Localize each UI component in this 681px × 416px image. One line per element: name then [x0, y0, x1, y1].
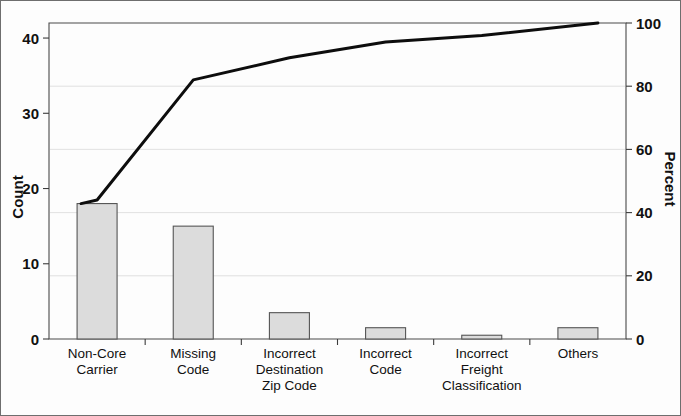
- y-axis-ticks: 010203040: [22, 30, 49, 348]
- bar: [558, 328, 598, 339]
- x-axis-ticks: [145, 339, 530, 345]
- x-axis-category-label: Incorrect: [263, 346, 316, 361]
- x-axis-category-label: Carrier: [76, 362, 118, 377]
- x-axis-category-label: Incorrect: [359, 346, 412, 361]
- gridlines: [50, 86, 625, 276]
- x-axis-category-labels: Non-CoreCarrierMissingCodeIncorrectDesti…: [68, 346, 599, 393]
- bar: [269, 313, 309, 339]
- bar: [366, 328, 406, 339]
- pareto-chart-figure: 010203040 020406080100 Non-CoreCarrierMi…: [0, 0, 681, 416]
- y2-tick-label: 100: [636, 15, 661, 32]
- y2-axis-ticks: 020406080100: [626, 15, 661, 348]
- x-axis-category-label: Incorrect: [455, 346, 508, 361]
- bar: [462, 335, 502, 339]
- y2-tick-label: 40: [636, 204, 653, 221]
- y2-axis-title: Percent: [662, 151, 679, 206]
- y2-tick-label: 80: [636, 78, 653, 95]
- x-axis-category-label: Missing: [170, 346, 216, 361]
- x-axis-category-label: Code: [177, 362, 209, 377]
- chart-canvas: 010203040 020406080100 Non-CoreCarrierMi…: [1, 1, 681, 416]
- y-axis-title: Count: [9, 175, 26, 218]
- x-axis-category-label: Non-Core: [68, 346, 127, 361]
- y-tick-label: 10: [22, 255, 39, 272]
- x-axis-category-label: Freight: [461, 362, 503, 377]
- x-axis-category-label: Classification: [442, 378, 522, 393]
- x-axis-category-label: Destination: [256, 362, 324, 377]
- bar-series: [77, 204, 598, 339]
- y2-tick-label: 0: [636, 331, 644, 348]
- x-axis-category-label: Code: [369, 362, 401, 377]
- plot-frame: [49, 23, 626, 339]
- y-tick-label: 30: [22, 105, 39, 122]
- y2-tick-label: 60: [636, 141, 653, 158]
- x-axis-category-label: Zip Code: [262, 378, 317, 393]
- bar: [77, 204, 117, 339]
- x-axis-category-label: Others: [558, 346, 599, 361]
- y-tick-label: 0: [31, 331, 39, 348]
- y-tick-label: 40: [22, 30, 39, 47]
- y2-tick-label: 20: [636, 267, 653, 284]
- cumulative-percent-line: [81, 23, 598, 204]
- bar: [173, 226, 213, 339]
